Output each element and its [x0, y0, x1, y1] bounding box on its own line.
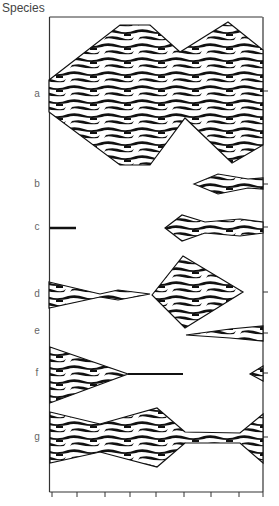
x-axis-ticks: [52, 492, 263, 497]
spindle-b: [194, 174, 263, 194]
spindle-e: [186, 326, 263, 341]
spindle-a: [49, 22, 263, 165]
spindle-g: [50, 408, 263, 467]
spindle-d-diamond: [152, 256, 243, 328]
spindle-chart: [0, 0, 279, 506]
spindle-d-wedge: [49, 282, 150, 308]
right-axis-ticks: [263, 91, 268, 437]
spindle-f-wedge: [50, 347, 128, 403]
spindle-c: [165, 215, 263, 241]
spindle-f-right: [250, 366, 263, 381]
